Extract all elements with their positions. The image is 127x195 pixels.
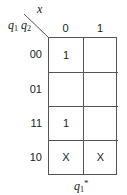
column-header-1: 1 xyxy=(83,22,117,34)
column-variable-text: x xyxy=(37,2,42,16)
row-var-q2-sub: 2 xyxy=(27,24,31,33)
output-var-sup: * xyxy=(84,178,89,188)
kmap-cell-11-0: 1 xyxy=(49,106,84,141)
kmap-cell-10-1: X xyxy=(83,140,118,175)
kmap-cell-01-0 xyxy=(49,72,84,107)
row-header-00: 00 xyxy=(20,48,42,60)
row-header-11: 11 xyxy=(20,117,42,129)
column-header-0: 0 xyxy=(48,22,83,34)
row-header-01: 01 xyxy=(20,83,42,95)
kmap-cell-00-1 xyxy=(83,38,118,73)
output-label: q1* xyxy=(74,178,89,194)
kmap-cell-00-0: 1 xyxy=(49,38,84,73)
kmap-cell-01-1 xyxy=(83,72,118,107)
row-variables-label: q1 q2 xyxy=(8,18,31,33)
kmap-grid: 1 1 X X xyxy=(48,37,117,175)
kmap-cell-10-0: X xyxy=(49,140,84,175)
row-var-q1-sub: 1 xyxy=(14,24,18,33)
column-variable-label: x xyxy=(37,2,42,17)
kmap-cell-11-1 xyxy=(83,106,118,141)
row-header-10: 10 xyxy=(20,151,42,163)
